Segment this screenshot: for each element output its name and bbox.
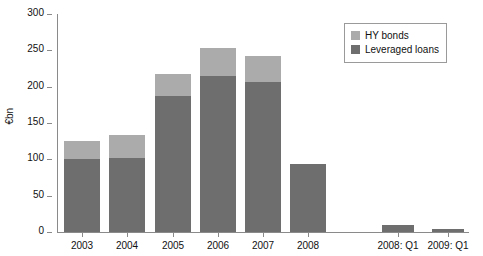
y-tick-0: 0 (52, 232, 57, 233)
x-tick-0 (82, 233, 83, 237)
bar-segment-leveraged-loans (64, 159, 100, 232)
bar-2003 (64, 141, 100, 232)
legend-item-leveraged-loans: Leveraged loans (351, 43, 439, 56)
y-axis-label: €bn (4, 111, 15, 125)
legend-label-hy-bonds: HY bonds (365, 30, 409, 41)
bar-segment-hy-bonds (109, 135, 145, 158)
bar-segment-hy-bonds (64, 141, 100, 158)
y-tick-label-6: 300 (27, 7, 44, 18)
legend-label-leveraged-loans: Leveraged loans (365, 44, 439, 55)
legend-item-hy-bonds: HY bonds (351, 29, 439, 42)
legend-swatch-leveraged-loans (351, 45, 360, 54)
bar-2008-q1 (382, 225, 414, 232)
x-tick-7 (448, 233, 449, 237)
bar-segment-hy-bonds (155, 74, 191, 97)
bar-segment-leveraged-loans (382, 225, 414, 232)
bar-segment-leveraged-loans (200, 76, 236, 232)
x-tick-2 (173, 233, 174, 237)
x-tick-3 (218, 233, 219, 237)
bar-segment-leveraged-loans (155, 96, 191, 232)
x-tick-label-5: 2008 (278, 240, 338, 251)
y-tick-3: 150 (52, 123, 57, 124)
x-tick-1 (127, 233, 128, 237)
bar-2008 (290, 164, 326, 232)
x-tick-4 (263, 233, 264, 237)
bar-segment-leveraged-loans (432, 229, 464, 232)
bar-2006 (200, 48, 236, 232)
y-tick-label-4: 200 (27, 80, 44, 91)
y-tick-label-5: 250 (27, 43, 44, 54)
chart-legend: HY bonds Leveraged loans (344, 23, 447, 63)
bar-2005 (155, 74, 191, 232)
x-tick-6 (398, 233, 399, 237)
legend-swatch-hy-bonds (351, 31, 360, 40)
y-tick-4: 200 (52, 87, 57, 88)
x-tick-5 (308, 233, 309, 237)
y-tick-5: 250 (52, 50, 57, 51)
y-tick-label-1: 50 (33, 189, 44, 200)
bar-segment-hy-bonds (200, 48, 236, 76)
y-tick-label-2: 100 (27, 152, 44, 163)
y-tick-label-3: 150 (27, 116, 44, 127)
bar-2009-q1 (432, 229, 464, 232)
bar-2007 (245, 56, 281, 232)
bar-segment-leveraged-loans (245, 82, 281, 232)
y-axis-line (57, 14, 58, 233)
x-tick-label-7: 2009: Q1 (418, 240, 478, 251)
bar-2004 (109, 135, 145, 232)
y-tick-6: 300 (52, 14, 57, 15)
chart-figure: €bn 0 50 100 150 200 250 (0, 0, 483, 256)
y-tick-label-0: 0 (38, 225, 44, 236)
bar-segment-leveraged-loans (109, 158, 145, 232)
bar-segment-leveraged-loans (290, 164, 326, 232)
y-tick-1: 50 (52, 196, 57, 197)
y-tick-2: 100 (52, 159, 57, 160)
bar-segment-hy-bonds (245, 56, 281, 81)
